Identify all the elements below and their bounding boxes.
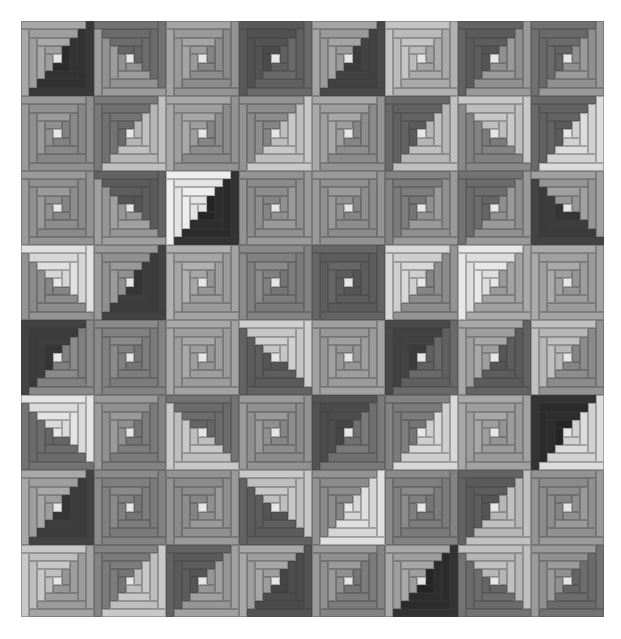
log-strip-left bbox=[474, 46, 482, 79]
log-strip-left bbox=[409, 204, 417, 220]
block-center-square bbox=[490, 204, 498, 212]
log-strip-right bbox=[426, 121, 434, 138]
log-strip-left bbox=[336, 577, 344, 593]
log-strip-right bbox=[215, 262, 223, 295]
log-strip-bottom bbox=[247, 462, 312, 470]
quilt-block bbox=[239, 545, 312, 617]
block-center-square bbox=[490, 428, 498, 436]
log-strip-right bbox=[142, 262, 150, 295]
log-strip-bottom bbox=[37, 528, 86, 536]
log-strip-top bbox=[539, 553, 588, 561]
quilt-block bbox=[531, 320, 604, 395]
quilt-block bbox=[21, 96, 94, 171]
log-strip-left bbox=[312, 179, 320, 245]
log-strip-top bbox=[401, 487, 433, 495]
log-strip-right bbox=[280, 495, 288, 512]
log-strip-top bbox=[182, 337, 214, 345]
log-strip-top bbox=[458, 171, 523, 179]
log-strip-top bbox=[94, 96, 158, 104]
quilt-block bbox=[21, 545, 94, 617]
log-strip-left bbox=[336, 503, 344, 520]
quilt-block bbox=[94, 171, 166, 245]
log-strip-top bbox=[547, 412, 579, 420]
quilt-block bbox=[385, 545, 458, 617]
log-strip-top bbox=[466, 179, 515, 187]
log-strip-right bbox=[231, 320, 239, 387]
quilt-block bbox=[385, 395, 458, 470]
log-strip-bottom bbox=[417, 212, 433, 220]
log-strip-top bbox=[166, 470, 231, 478]
log-strip-top bbox=[166, 21, 231, 29]
log-strip-left bbox=[190, 428, 198, 445]
log-strip-right bbox=[499, 420, 507, 437]
log-strip-top bbox=[247, 29, 296, 37]
log-strip-top bbox=[482, 345, 498, 353]
log-strip-left bbox=[409, 503, 417, 520]
log-strip-right bbox=[523, 96, 531, 163]
log-strip-right bbox=[62, 270, 70, 287]
log-strip-top bbox=[401, 113, 433, 121]
log-strip-right bbox=[70, 561, 78, 593]
log-strip-left bbox=[102, 487, 110, 537]
log-strip-bottom bbox=[417, 138, 433, 146]
log-strip-right bbox=[596, 470, 604, 537]
log-strip-left bbox=[409, 54, 417, 71]
log-strip-bottom bbox=[263, 146, 295, 154]
log-strip-left bbox=[466, 38, 474, 88]
log-strip-top bbox=[393, 253, 442, 261]
log-strip-bottom bbox=[198, 63, 214, 71]
log-strip-top bbox=[328, 113, 360, 121]
log-strip-top bbox=[458, 470, 523, 478]
log-strip-bottom bbox=[466, 237, 531, 245]
log-strip-right bbox=[78, 553, 86, 601]
log-strip-right bbox=[158, 245, 166, 312]
log-strip-right bbox=[62, 121, 70, 138]
log-strip-top bbox=[320, 328, 369, 336]
log-strip-bottom bbox=[320, 237, 385, 245]
log-strip-top bbox=[94, 395, 158, 403]
log-strip-bottom bbox=[539, 609, 604, 617]
log-strip-right bbox=[507, 262, 515, 295]
quilt-block bbox=[312, 545, 385, 617]
block-center-square bbox=[198, 503, 206, 511]
log-strip-top bbox=[45, 121, 61, 129]
log-strip-bottom bbox=[174, 462, 239, 470]
block-center-square bbox=[271, 204, 279, 212]
log-strip-left bbox=[239, 478, 247, 545]
log-strip-bottom bbox=[474, 229, 523, 237]
quilt-block bbox=[94, 96, 166, 171]
log-strip-top bbox=[166, 395, 231, 403]
log-strip-bottom bbox=[409, 220, 441, 228]
log-strip-right bbox=[515, 553, 523, 601]
log-strip-right bbox=[515, 104, 523, 154]
log-strip-top bbox=[458, 395, 523, 403]
log-strip-left bbox=[336, 278, 344, 295]
log-strip-right bbox=[280, 420, 288, 437]
log-strip-right bbox=[70, 38, 78, 71]
log-strip-bottom bbox=[263, 445, 295, 453]
log-strip-top bbox=[110, 262, 142, 270]
log-strip-bottom bbox=[539, 163, 604, 171]
log-strip-top bbox=[320, 553, 369, 561]
log-strip-bottom bbox=[401, 528, 450, 536]
log-strip-top bbox=[182, 262, 214, 270]
log-strip-right bbox=[304, 96, 312, 163]
log-strip-bottom bbox=[182, 378, 231, 386]
log-strip-left bbox=[482, 577, 490, 593]
log-strip-left bbox=[94, 478, 102, 545]
log-strip-bottom bbox=[263, 71, 295, 79]
log-strip-top bbox=[401, 38, 433, 46]
log-strip-bottom bbox=[174, 609, 239, 617]
log-strip-top bbox=[190, 196, 206, 204]
log-strip-left bbox=[328, 495, 336, 528]
log-strip-top bbox=[328, 412, 360, 420]
log-strip-bottom bbox=[45, 520, 77, 528]
log-strip-top bbox=[263, 270, 279, 278]
log-strip-left bbox=[110, 46, 118, 79]
block-center-square bbox=[126, 129, 134, 137]
log-strip-left bbox=[466, 262, 474, 312]
log-strip-left bbox=[531, 253, 539, 320]
log-strip-bottom bbox=[547, 601, 596, 609]
log-strip-left bbox=[555, 503, 563, 520]
log-strip-bottom bbox=[409, 370, 441, 378]
